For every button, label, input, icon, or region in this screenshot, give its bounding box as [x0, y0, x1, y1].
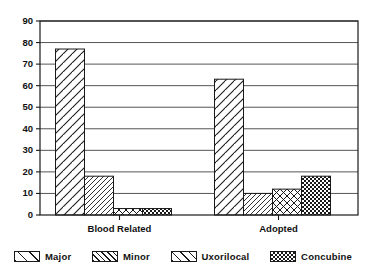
bar	[114, 209, 143, 215]
chart-svg: 0102030405060708090 Blood RelatedAdopted	[0, 0, 366, 238]
x-tick-label: Adopted	[259, 223, 298, 234]
bars-group	[56, 49, 331, 215]
legend-label-minor: Minor	[123, 251, 150, 262]
legend-label-concubine: Concubine	[301, 251, 352, 262]
x-tick-label: Blood Related	[88, 223, 152, 234]
y-tick-label: 70	[22, 58, 33, 69]
legend-swatch-minor	[92, 251, 118, 262]
bar	[215, 79, 244, 215]
x-axis: Blood RelatedAdopted	[88, 215, 298, 234]
bar	[85, 176, 114, 215]
legend-item-uxorilocal: Uxorilocal	[171, 251, 250, 262]
y-tick-label: 60	[22, 80, 33, 91]
y-tick-label: 50	[22, 101, 33, 112]
legend-swatch-major	[14, 251, 40, 262]
y-axis: 0102030405060708090	[22, 15, 40, 220]
bar	[302, 176, 331, 215]
legend-swatch-concubine	[270, 251, 296, 262]
gridlines	[40, 21, 358, 193]
legend-swatch-uxorilocal	[171, 251, 197, 262]
y-tick-label: 0	[28, 209, 33, 220]
bar-chart: 0102030405060708090 Blood RelatedAdopted…	[0, 0, 366, 272]
y-tick-label: 80	[22, 37, 33, 48]
legend-item-minor: Minor	[92, 251, 150, 262]
bar	[273, 189, 302, 215]
bar	[56, 49, 85, 215]
plot-area: 0102030405060708090 Blood RelatedAdopted	[0, 0, 366, 238]
y-tick-label: 30	[22, 144, 33, 155]
y-tick-label: 20	[22, 166, 33, 177]
legend-label-major: Major	[45, 251, 71, 262]
chart-legend: Major Minor Uxorilocal Concubine	[0, 243, 366, 269]
legend-label-uxorilocal: Uxorilocal	[202, 251, 250, 262]
bar	[244, 193, 273, 215]
y-tick-label: 10	[22, 187, 33, 198]
legend-item-concubine: Concubine	[270, 251, 352, 262]
legend-item-major: Major	[14, 251, 71, 262]
y-tick-label: 40	[22, 123, 33, 134]
bar	[143, 209, 172, 215]
y-tick-label: 90	[22, 15, 33, 26]
